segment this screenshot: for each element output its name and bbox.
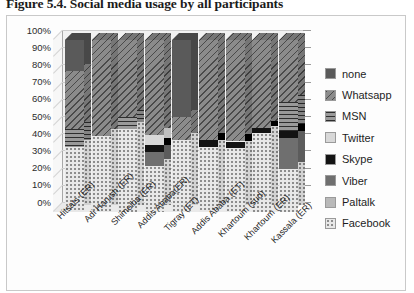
y-axis-tick-label: 0%: [11, 198, 51, 207]
figure-caption: Figure 5.4. Social media usage by all pa…: [6, 0, 283, 12]
legend-swatch-icon: [325, 111, 336, 122]
bar-segment-side: [164, 128, 171, 138]
legend-item[interactable]: Paltalk: [325, 191, 406, 212]
legend-label: Whatsapp: [342, 89, 392, 101]
legend-item[interactable]: Facebook: [325, 213, 406, 234]
y-axis-tick-label: 50%: [11, 112, 51, 121]
bar-segment-side: [245, 33, 252, 134]
bar-segment-side: [271, 121, 278, 126]
legend-item[interactable]: none: [325, 63, 406, 84]
legend-label: Paltalk: [342, 196, 375, 208]
bar-segment-side: [245, 141, 252, 205]
bar-segment-side: [298, 33, 305, 95]
legend-label: Twitter: [342, 132, 374, 144]
bar-segment-skype[interactable]: [145, 145, 164, 152]
y-axis-tick-label: 10%: [11, 180, 51, 189]
legend-item[interactable]: Whatsapp: [325, 84, 406, 105]
bar-segment-skype[interactable]: [252, 128, 271, 133]
legend-item[interactable]: Skype: [325, 149, 406, 170]
bar-segment-skype[interactable]: [199, 140, 218, 147]
y-axis-tick: [303, 30, 311, 31]
legend-swatch-icon: [325, 197, 336, 208]
y-axis-tick-label: 90%: [11, 43, 51, 52]
bar-segment-side: [271, 126, 278, 205]
bar-segment-side: [298, 131, 305, 162]
bar-segment-side: [218, 133, 225, 140]
bar-segment-whatsapp[interactable]: [226, 40, 245, 141]
bar-segment-whatsapp[interactable]: [252, 40, 271, 128]
bar-segment-side: [164, 33, 171, 128]
stacked-bar[interactable]: [252, 40, 271, 212]
gridline: [62, 30, 303, 31]
x-axis: Hitsats (ER)Adi Harush (ER)Shimelba (ER)…: [41, 214, 331, 291]
bar-segment-side: [298, 162, 305, 205]
bar-segment-whatsapp[interactable]: [92, 40, 111, 136]
legend-swatch-icon: [325, 132, 336, 143]
bar-segment-side: [191, 33, 198, 110]
bar-segment-whatsapp[interactable]: [199, 40, 218, 140]
bar-segment-skype[interactable]: [279, 131, 298, 138]
bar-segment-side: [271, 33, 278, 121]
y-axis-tick-label: 60%: [11, 94, 51, 103]
bar-segment-side: [245, 134, 252, 141]
legend-label: none: [342, 68, 366, 80]
y-axis-tick-label: 80%: [11, 60, 51, 69]
y-axis-tick-label: 40%: [11, 129, 51, 138]
bar-segment-none[interactable]: [172, 40, 191, 117]
bar-segment-twitter[interactable]: [145, 135, 164, 145]
y-axis: 0%10%20%30%40%50%60%70%80%90%100%: [11, 24, 51, 210]
legend-swatch-icon: [325, 68, 336, 79]
legend-label: Viber: [342, 175, 367, 187]
bar-segment-side: [137, 33, 144, 110]
bar-segment-msn[interactable]: [118, 117, 137, 129]
legend-item[interactable]: MSN: [325, 106, 406, 127]
bar-segment-side: [218, 33, 225, 133]
y-axis-tick-label: 30%: [11, 146, 51, 155]
bar-segment-whatsapp[interactable]: [65, 71, 84, 129]
bar-segment-side: [164, 145, 171, 159]
y-axis-tick-label: 20%: [11, 163, 51, 172]
chart-legend: noneWhatsappMSNTwitterSkypeViberPaltalkF…: [325, 63, 406, 234]
stacked-bar[interactable]: [199, 40, 218, 212]
legend-item[interactable]: Twitter: [325, 127, 406, 148]
stacked-bar[interactable]: [279, 40, 298, 212]
chart-container: 0%10%20%30%40%50%60%70%80%90%100% Hitsat…: [6, 15, 406, 291]
bar-segment-side: [164, 138, 171, 145]
legend-swatch-icon: [325, 154, 336, 165]
y-axis-tick-label: 100%: [11, 26, 51, 35]
bar-segment-viber[interactable]: [279, 138, 298, 169]
legend-label: Skype: [342, 153, 373, 165]
legend-label: Facebook: [342, 217, 390, 229]
bar-segment-side: [137, 110, 144, 122]
bar-segment-side: [191, 110, 198, 132]
legend-swatch-icon: [325, 218, 336, 229]
bar-segment-viber[interactable]: [145, 152, 164, 166]
bar-segment-whatsapp[interactable]: [118, 40, 137, 117]
bar-segment-side: [84, 64, 91, 122]
bar-segment-whatsapp[interactable]: [172, 117, 191, 139]
bar-segment-msn[interactable]: [65, 129, 84, 146]
bar-segment-side: [298, 124, 305, 131]
bar-segment-skype[interactable]: [226, 142, 245, 149]
bar-segment-msn[interactable]: [279, 102, 298, 131]
legend-swatch-icon: [325, 90, 336, 101]
bar-segment-whatsapp[interactable]: [279, 40, 298, 102]
bar-segment-none[interactable]: [65, 40, 84, 71]
bar-segment-side: [111, 33, 118, 129]
bar-segment-side: [84, 122, 91, 139]
bar-segment-side: [298, 95, 305, 124]
bar-segment-whatsapp[interactable]: [145, 40, 164, 135]
y-axis-tick-label: 70%: [11, 77, 51, 86]
legend-label: MSN: [342, 110, 366, 122]
legend-swatch-icon: [325, 175, 336, 186]
legend-item[interactable]: Viber: [325, 170, 406, 191]
